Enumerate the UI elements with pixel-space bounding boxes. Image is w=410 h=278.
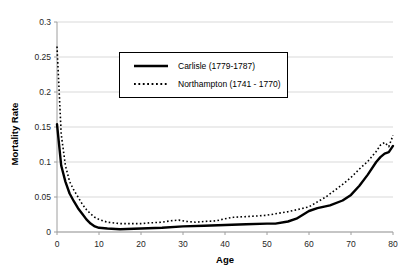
x-tick-label: 80 xyxy=(388,239,398,249)
y-tick-label: 0 xyxy=(46,227,51,237)
y-tick-label: 0.2 xyxy=(39,87,51,97)
legend-item-carlisle: Carlisle (1779-1787) xyxy=(120,61,287,71)
y-axis-title: Mortality Rate xyxy=(9,103,20,166)
x-tick-label: 0 xyxy=(55,239,60,249)
x-tick-label: 60 xyxy=(304,239,314,249)
x-tick-label: 20 xyxy=(136,239,146,249)
y-tick-label: 0.05 xyxy=(34,192,51,202)
x-tick-label: 30 xyxy=(178,239,188,249)
dotted-line-swatch-icon xyxy=(133,81,169,87)
legend-label-carlisle: Carlisle (1779-1787) xyxy=(178,61,255,71)
x-tick-label: 40 xyxy=(220,239,230,249)
y-tick-label: 0.1 xyxy=(39,157,51,167)
y-tick-label: 0.25 xyxy=(34,52,51,62)
series-line-carlisle xyxy=(57,124,393,229)
mortality-chart-figure: 00.050.10.150.20.250.301020304050607080 … xyxy=(0,0,410,278)
legend-label-northampton: Northampton (1741 - 1770) xyxy=(178,79,281,89)
legend: Carlisle (1779-1787) Northampton (1741 -… xyxy=(119,52,288,98)
solid-line-swatch-icon xyxy=(133,63,169,69)
x-tick-label: 10 xyxy=(94,239,104,249)
y-tick-label: 0.15 xyxy=(34,122,51,132)
y-tick-label: 0.3 xyxy=(39,17,51,27)
x-tick-label: 70 xyxy=(346,239,356,249)
plot-area: 00.050.10.150.20.250.301020304050607080 xyxy=(0,0,410,278)
x-tick-label: 50 xyxy=(262,239,272,249)
x-axis-title: Age xyxy=(216,254,234,265)
legend-item-northampton: Northampton (1741 - 1770) xyxy=(120,79,287,89)
